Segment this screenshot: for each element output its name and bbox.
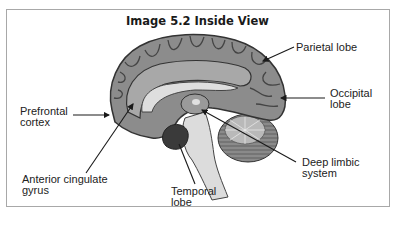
cerebellum [218,114,278,162]
temporal-region [163,125,189,150]
arrow-parietal [263,47,294,61]
label-text: gyrus [22,185,108,196]
label-parietal-lobe: Parietal lobe [296,42,357,53]
label-text: cortex [20,117,68,128]
label-occipital-lobe: Occipital lobe [330,88,372,110]
arrow-anterior-cingulate [86,104,133,173]
label-text: Parietal lobe [296,42,357,53]
label-text: lobe [171,197,216,208]
label-anterior-cingulate-gyrus: Anterior cingulate gyrus [22,174,108,196]
label-deep-limbic-system: Deep limbic system [302,157,359,179]
label-temporal-lobe: Temporal lobe [171,186,216,208]
label-text: system [302,168,359,179]
label-text: lobe [330,99,372,110]
label-prefrontal-cortex: Prefrontal cortex [20,106,68,128]
